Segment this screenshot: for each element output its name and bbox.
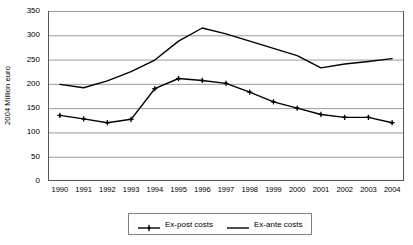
chart-legend: Ex-post costsEx-ante costs: [128, 213, 312, 235]
data-point-marker: [59, 114, 62, 117]
legend-swatch-icon: [138, 219, 160, 229]
x-tick-label: 1999: [262, 184, 286, 198]
data-point-marker: [225, 82, 228, 85]
data-point-marker: [272, 101, 275, 104]
x-tick-label: 1991: [72, 184, 96, 198]
x-tick-label: 2004: [380, 184, 404, 198]
data-point-marker: [177, 77, 180, 80]
x-tick-label: 1990: [48, 184, 72, 198]
data-point-marker: [130, 118, 133, 121]
data-point-marker: [320, 113, 323, 116]
data-point-marker: [82, 118, 85, 121]
y-axis-title: 2004 Million euro: [0, 0, 14, 190]
plot-svg: [48, 11, 404, 181]
series-2: [60, 28, 392, 88]
data-point-marker: [343, 116, 346, 119]
data-point-marker: [154, 87, 157, 90]
data-point-marker: [367, 116, 370, 119]
y-tick-label: 350: [14, 7, 44, 15]
data-point-marker: [106, 121, 109, 124]
x-tick-label: 1992: [95, 184, 119, 198]
data-point-marker: [248, 91, 251, 94]
y-tick-label: 150: [14, 104, 44, 112]
x-tick-label: 2001: [309, 184, 333, 198]
series-1: [57, 76, 394, 125]
y-tick-label: 200: [14, 80, 44, 88]
x-tick-label: 1994: [143, 184, 167, 198]
y-tick-label: 100: [14, 128, 44, 136]
legend-label: Ex-ante costs: [254, 220, 302, 229]
x-tick-label: 1997: [214, 184, 238, 198]
x-tick-label: 2003: [357, 184, 381, 198]
x-tick-label: 2000: [285, 184, 309, 198]
legend-swatch-icon: [227, 219, 249, 229]
y-tick-label: 300: [14, 31, 44, 39]
y-tick-label: 0: [14, 177, 44, 185]
plot-area: [48, 11, 404, 181]
y-tick-label: 50: [14, 153, 44, 161]
data-point-marker: [391, 121, 394, 124]
x-tick-label: 1995: [167, 184, 191, 198]
legend-label: Ex-post costs: [165, 220, 213, 229]
y-tick-label: 250: [14, 56, 44, 64]
legend-entry: Ex-post costs: [138, 219, 213, 229]
y-axis-tick-labels: 350300250200150100500: [14, 0, 44, 190]
y-axis-title-label: 2004 Million euro: [3, 66, 12, 125]
legend-entry: Ex-ante costs: [227, 219, 302, 229]
data-point-marker: [296, 107, 299, 110]
data-point-marker: [201, 79, 204, 82]
x-tick-label: 2002: [333, 184, 357, 198]
x-tick-label: 1993: [119, 184, 143, 198]
x-axis-tick-labels: 1990199119921993199419951996199719981999…: [48, 184, 404, 198]
x-tick-label: 1996: [190, 184, 214, 198]
series-line: [60, 28, 392, 88]
x-tick-label: 1998: [238, 184, 262, 198]
line-chart: 2004 Million euro 350300250200150100500 …: [0, 0, 413, 245]
